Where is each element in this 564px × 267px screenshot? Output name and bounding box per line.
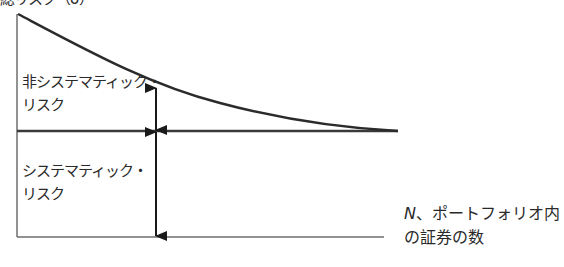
x-axis-label-line1-text: 、ポートフォリオ内 <box>416 204 560 223</box>
unsystematic-risk-label-line1: 非システマティック・ <box>22 71 161 93</box>
x-axis-label-line1: N、ポートフォリオ内 <box>404 202 560 226</box>
systematic-risk-label-line2: リスク <box>22 183 64 205</box>
unsystematic-risk-label-line2: リスク <box>22 94 64 116</box>
risk-diversification-diagram: 総リスク（σ） 非システマティック・ リスク システマティック・ リスク N、ポ… <box>0 0 564 267</box>
systematic-risk-label-line1: システマティック・ <box>22 160 147 182</box>
x-axis-variable: N <box>404 204 416 223</box>
x-axis-label-line2: の証券の数 <box>404 226 560 250</box>
y-axis-label: 総リスク（σ） <box>0 0 93 10</box>
x-axis-label: N、ポートフォリオ内 の証券の数 <box>404 202 560 250</box>
